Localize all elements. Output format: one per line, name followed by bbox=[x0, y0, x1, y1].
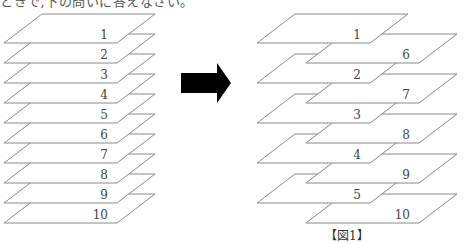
plate-label: 5 bbox=[353, 188, 361, 202]
right-arrow-icon bbox=[181, 63, 231, 103]
plate-label: 10 bbox=[93, 208, 108, 222]
plate-label: 1 bbox=[100, 28, 108, 42]
plate-label: 3 bbox=[100, 68, 108, 82]
plate-label: 4 bbox=[353, 148, 361, 162]
plate-label: 10 bbox=[395, 208, 410, 222]
plate-label: 7 bbox=[402, 88, 410, 102]
plate-label: 3 bbox=[353, 108, 361, 122]
plate-label: 8 bbox=[100, 168, 108, 182]
plate-label: 8 bbox=[402, 128, 410, 142]
plate-label: 2 bbox=[100, 48, 108, 62]
figure-caption: 【図1】 bbox=[325, 226, 369, 243]
plate-label: 7 bbox=[100, 148, 108, 162]
plate-label: 6 bbox=[100, 128, 108, 142]
plate-label: 1 bbox=[353, 28, 361, 42]
plate-label: 2 bbox=[353, 68, 361, 82]
right-stack: 10594837261 bbox=[257, 14, 457, 223]
plate-label: 5 bbox=[100, 108, 108, 122]
plate-label: 6 bbox=[402, 48, 410, 62]
plate-label: 9 bbox=[100, 188, 108, 202]
question-text: ときで,下の問いに答えなさい。 bbox=[0, 0, 194, 10]
plate-label: 4 bbox=[100, 88, 108, 102]
left-stack: 10987654321 bbox=[4, 14, 155, 223]
plate-label: 9 bbox=[402, 168, 410, 182]
